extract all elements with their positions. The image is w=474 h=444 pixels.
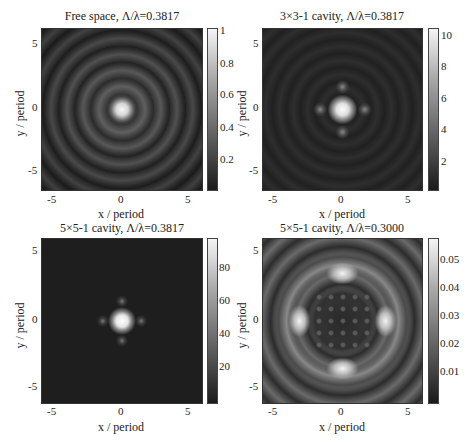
- cbar-tick: 0.02: [440, 337, 459, 349]
- x-tick: 0: [118, 405, 124, 417]
- center-spot: [42, 239, 202, 403]
- colorbar: [428, 238, 439, 404]
- cbar-tick: 0.6: [220, 88, 234, 100]
- x-tick: 0: [338, 193, 344, 205]
- colorbar: [207, 238, 218, 404]
- cbar-tick: 0.4: [220, 121, 234, 133]
- heatmap-plot: [41, 28, 203, 191]
- cbar-tick: 20: [219, 360, 230, 372]
- x-tick: -5: [47, 405, 56, 417]
- cbar-tick: 6: [441, 92, 447, 104]
- heatmap-plot: [262, 238, 423, 404]
- panel-title: 5×5-1 cavity, Λ/λ=0.3000: [262, 221, 422, 236]
- x-tick: 0: [118, 193, 124, 205]
- heatmap-plot: [41, 238, 203, 404]
- y-tick: -5: [249, 164, 258, 176]
- x-tick: -5: [268, 405, 277, 417]
- cbar-tick: 1: [220, 24, 226, 36]
- cbar-tick: 0.01: [440, 365, 459, 377]
- x-axis-label: x / period: [302, 420, 382, 435]
- y-axis-label: y / period: [235, 81, 250, 137]
- cbar-tick: 40: [219, 327, 230, 339]
- x-axis-label: x / period: [81, 420, 161, 435]
- cbar-tick: 10: [441, 29, 452, 41]
- cbar-tick: 60: [219, 294, 230, 306]
- cbar-tick: 8: [441, 60, 447, 72]
- panel-title: Free space, Λ/λ=0.3817: [41, 9, 203, 24]
- cbar-tick: 2: [441, 155, 447, 167]
- y-tick: -5: [28, 164, 37, 176]
- heatmap-plot: [262, 28, 423, 191]
- x-axis-label: x / period: [302, 207, 382, 222]
- center-spot: [263, 29, 422, 190]
- cbar-tick: 0.04: [440, 281, 459, 293]
- x-tick: 0: [338, 405, 344, 417]
- y-axis-label: y / period: [13, 81, 28, 137]
- y-tick: 0: [32, 313, 38, 325]
- lattice-dots: [313, 291, 373, 351]
- cbar-tick: 4: [441, 123, 447, 135]
- colorbar: [428, 28, 439, 191]
- x-tick: 5: [185, 405, 191, 417]
- panel-title: 5×5-1 cavity, Λ/λ=0.3817: [41, 221, 203, 236]
- y-tick: 5: [253, 244, 259, 256]
- colorbar: [207, 28, 218, 191]
- panel-title: 3×3-1 cavity, Λ/λ=0.3817: [262, 9, 422, 24]
- y-tick: 5: [253, 37, 259, 49]
- y-tick: 0: [253, 101, 259, 113]
- cbar-tick: 0.2: [220, 153, 234, 165]
- y-tick: 5: [32, 37, 38, 49]
- y-tick: -5: [28, 380, 37, 392]
- x-tick: 5: [185, 193, 191, 205]
- x-axis-label: x / period: [81, 207, 161, 222]
- y-tick: 0: [32, 101, 38, 113]
- y-tick: 0: [253, 313, 259, 325]
- cbar-tick: 0.8: [220, 57, 234, 69]
- ring-falloff: [42, 29, 202, 190]
- y-tick: 5: [32, 244, 38, 256]
- y-axis-label: y / period: [13, 293, 28, 349]
- x-tick: 5: [405, 193, 411, 205]
- cbar-tick: 0.05: [440, 253, 459, 265]
- x-tick: -5: [47, 193, 56, 205]
- x-tick: 5: [405, 405, 411, 417]
- y-axis-label: y / period: [235, 293, 250, 349]
- x-tick: -5: [268, 193, 277, 205]
- cbar-tick: 0.03: [440, 309, 459, 321]
- y-tick: -5: [249, 380, 258, 392]
- cbar-tick: 80: [219, 261, 230, 273]
